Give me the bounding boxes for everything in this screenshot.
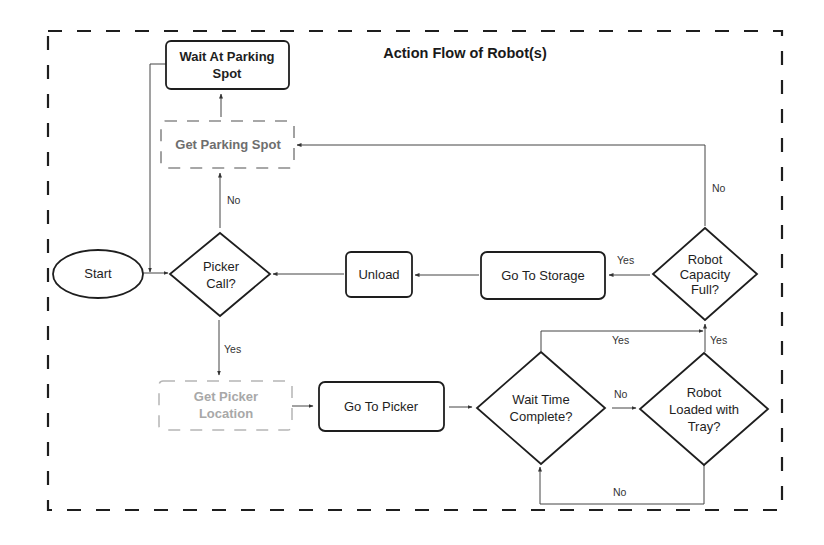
label-loaded-yes: Yes bbox=[710, 334, 727, 346]
flowchart-canvas: Action Flow of Robot(s) No Yes bbox=[0, 0, 824, 545]
node-picker-call-line2: Call? bbox=[206, 276, 236, 291]
node-robot-capacity-full-decision[interactable]: Robot Capacity Full? bbox=[653, 228, 757, 320]
node-wait-time-line2: Complete? bbox=[510, 409, 573, 424]
node-loaded-line3: Tray? bbox=[688, 419, 721, 434]
label-picker-call-yes: Yes bbox=[224, 343, 241, 355]
node-wait-time-line1: Wait Time bbox=[512, 392, 569, 407]
node-unload-label: Unload bbox=[358, 267, 399, 282]
label-capacity-yes: Yes bbox=[617, 254, 634, 266]
node-capacity-line3: Full? bbox=[691, 282, 719, 297]
edge-loaded-tray-no bbox=[540, 465, 704, 504]
label-capacity-no: No bbox=[712, 182, 726, 194]
node-get-picker-line1: Get Picker bbox=[194, 389, 258, 404]
node-start[interactable]: Start bbox=[53, 250, 143, 298]
node-get-parking-spot[interactable]: Get Parking Spot bbox=[161, 121, 294, 168]
node-picker-call-line1: Picker bbox=[203, 259, 240, 274]
node-wait-parking-line1: Wait At Parking bbox=[179, 49, 274, 64]
label-wait-time-yes: Yes bbox=[612, 334, 629, 346]
label-loaded-no: No bbox=[613, 486, 627, 498]
node-go-to-storage[interactable]: Go To Storage bbox=[481, 252, 605, 299]
node-loaded-line2: Loaded with bbox=[669, 402, 739, 417]
node-capacity-line1: Robot bbox=[688, 252, 723, 267]
node-robot-loaded-tray-decision[interactable]: Robot Loaded with Tray? bbox=[640, 353, 768, 465]
node-capacity-line2: Capacity bbox=[680, 267, 731, 282]
node-get-picker-location[interactable]: Get Picker Location bbox=[159, 381, 292, 430]
node-wait-at-parking-spot[interactable]: Wait At Parking Spot bbox=[166, 41, 289, 89]
diagram-title: Action Flow of Robot(s) bbox=[383, 45, 547, 61]
node-get-picker-line2: Location bbox=[199, 406, 253, 421]
edge-capacity-full-no bbox=[297, 145, 705, 226]
label-wait-time-no: No bbox=[614, 388, 628, 400]
node-picker-call-decision[interactable]: Picker Call? bbox=[170, 233, 270, 316]
node-start-label: Start bbox=[84, 266, 112, 281]
node-wait-parking-line2: Spot bbox=[213, 66, 243, 81]
label-picker-call-no: No bbox=[227, 194, 241, 206]
node-go-picker-label: Go To Picker bbox=[344, 399, 419, 414]
node-get-parking-label: Get Parking Spot bbox=[175, 137, 281, 152]
node-wait-time-complete-decision[interactable]: Wait Time Complete? bbox=[477, 352, 605, 464]
node-go-to-picker[interactable]: Go To Picker bbox=[319, 382, 444, 431]
node-loaded-line1: Robot bbox=[687, 385, 722, 400]
edge-wait-parking-to-picker-call bbox=[150, 64, 166, 272]
node-go-storage-label: Go To Storage bbox=[501, 268, 585, 283]
node-unload[interactable]: Unload bbox=[346, 252, 412, 297]
